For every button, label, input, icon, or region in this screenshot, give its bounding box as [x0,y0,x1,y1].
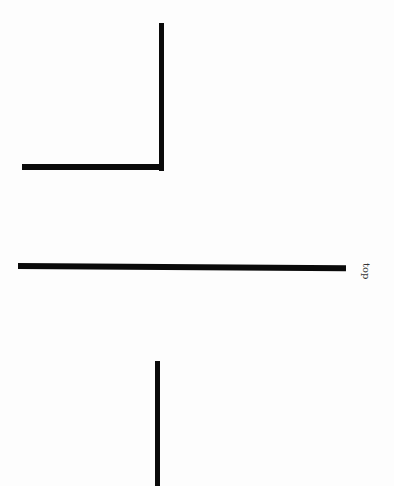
corner-bracket-horizontal [22,164,164,170]
middle-line [18,263,346,271]
top-label: top [361,263,372,279]
bottom-line [155,361,160,486]
corner-bracket-vertical [159,23,164,171]
